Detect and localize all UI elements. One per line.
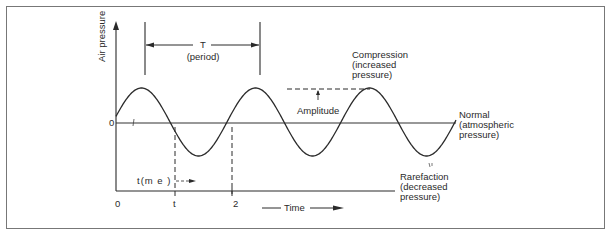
arrow-up-icon bbox=[316, 90, 320, 95]
rarefaction-label: Rarefaction (decreased pressure) bbox=[400, 172, 449, 202]
x-axis-label: Time bbox=[284, 203, 305, 213]
y-axis-arrow-icon bbox=[113, 21, 119, 30]
sine-wave bbox=[116, 88, 456, 156]
arrow-left-icon bbox=[146, 43, 154, 48]
rarefaction-line3: pressure) bbox=[400, 192, 449, 202]
wave-diagram bbox=[0, 0, 613, 236]
zero-tick bbox=[133, 119, 134, 126]
arrow-right-icon bbox=[251, 43, 259, 48]
period-label: (period) bbox=[180, 52, 226, 62]
time-small-arrow bbox=[176, 179, 196, 183]
y-axis bbox=[113, 21, 119, 191]
x-tick-2: 2 bbox=[233, 199, 238, 209]
x-tick-0: 0 bbox=[115, 199, 120, 209]
y-axis-label: Air pressure bbox=[96, 11, 107, 62]
time-marker-label: t(m e ) bbox=[137, 176, 171, 186]
amplitude-label: Amplitude bbox=[297, 106, 339, 116]
x-axis bbox=[116, 188, 395, 194]
arrow-right-icon bbox=[189, 179, 196, 183]
rarefaction-pointer bbox=[429, 163, 432, 167]
period-symbol: T bbox=[196, 40, 210, 50]
compression-line3: pressure) bbox=[352, 70, 408, 80]
zero-label: 0 bbox=[109, 118, 114, 128]
arrow-right-icon bbox=[333, 206, 344, 211]
normal-line3: pressure) bbox=[459, 130, 514, 140]
normal-label: Normal (atmospheric pressure) bbox=[459, 110, 514, 140]
compression-label: Compression (increased pressure) bbox=[352, 50, 408, 80]
x-tick-t: t bbox=[173, 199, 176, 209]
